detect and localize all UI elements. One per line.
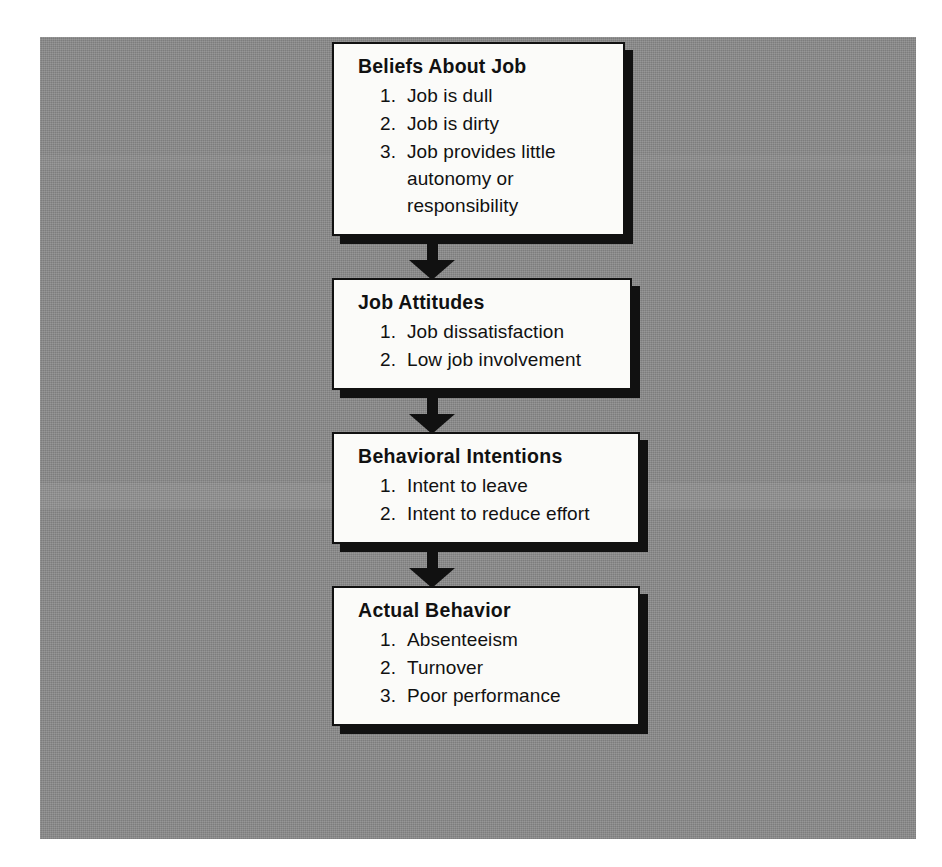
connector-arrow-down-icon xyxy=(290,544,650,586)
list-item-text: Job dissatisfaction xyxy=(407,321,564,342)
list-item-text: Job provides little autonomy or responsi… xyxy=(407,141,556,216)
list-item-text: Absenteeism xyxy=(407,629,518,650)
flow-box-title: Beliefs About Job xyxy=(348,55,609,78)
flow-box-list: 1. Job dissatisfaction 2. Low job involv… xyxy=(348,319,616,374)
list-item-number: 2. xyxy=(380,347,396,374)
list-item-text: Job is dull xyxy=(407,85,493,106)
list-item: 1. Job dissatisfaction xyxy=(380,319,616,346)
flow-box-title: Actual Behavior xyxy=(348,599,624,622)
list-item-number: 2. xyxy=(380,655,396,682)
list-item-text: Intent to leave xyxy=(407,475,528,496)
list-item-text: Intent to reduce effort xyxy=(407,503,590,524)
flow-box-behavioral-intentions: Behavioral Intentions 1. Intent to leave… xyxy=(332,432,640,544)
list-item: 1. Absenteeism xyxy=(380,627,624,654)
list-item: 3. Poor performance xyxy=(380,683,624,710)
flow-box-job-attitudes: Job Attitudes 1. Job dissatisfaction 2. … xyxy=(332,278,632,390)
list-item-number: 2. xyxy=(380,111,396,138)
list-item: 2. Job is dirty xyxy=(380,111,609,138)
list-item-number: 1. xyxy=(380,319,396,346)
flow-box-beliefs-about-job: Beliefs About Job 1. Job is dull 2. Job … xyxy=(332,42,625,236)
flow-box-title: Behavioral Intentions xyxy=(348,445,624,468)
list-item: 1. Intent to leave xyxy=(380,473,624,500)
connector-arrow-down-icon xyxy=(290,236,650,278)
arrow-head xyxy=(409,414,455,434)
arrow-stem xyxy=(427,236,438,262)
flow-box-list: 1. Absenteeism 2. Turnover 3. Poor perfo… xyxy=(348,627,624,710)
list-item-number: 3. xyxy=(380,683,396,710)
diagram-canvas: Beliefs About Job 1. Job is dull 2. Job … xyxy=(0,0,942,867)
list-item-number: 1. xyxy=(380,473,396,500)
flowchart: Beliefs About Job 1. Job is dull 2. Job … xyxy=(290,42,650,726)
list-item: 2. Intent to reduce effort xyxy=(380,501,624,528)
arrow-head xyxy=(409,260,455,280)
arrow-stem xyxy=(427,390,438,416)
list-item-text: Low job involvement xyxy=(407,349,581,370)
list-item-text: Poor performance xyxy=(407,685,561,706)
flow-box-title: Job Attitudes xyxy=(348,291,616,314)
arrow-stem xyxy=(427,544,438,570)
list-item: 2. Turnover xyxy=(380,655,624,682)
connector-arrow-down-icon xyxy=(290,390,650,432)
list-item-number: 3. xyxy=(380,139,396,166)
list-item-text: Job is dirty xyxy=(407,113,499,134)
arrow-head xyxy=(409,568,455,588)
flow-box-list: 1. Intent to leave 2. Intent to reduce e… xyxy=(348,473,624,528)
flow-box-list: 1. Job is dull 2. Job is dirty 3. Job pr… xyxy=(348,83,609,220)
flow-box-actual-behavior: Actual Behavior 1. Absenteeism 2. Turnov… xyxy=(332,586,640,726)
list-item: 2. Low job involvement xyxy=(380,347,616,374)
list-item: 1. Job is dull xyxy=(380,83,609,110)
list-item: 3. Job provides little autonomy or respo… xyxy=(380,139,609,220)
list-item-text: Turnover xyxy=(407,657,483,678)
list-item-number: 1. xyxy=(380,83,396,110)
list-item-number: 1. xyxy=(380,627,396,654)
list-item-number: 2. xyxy=(380,501,396,528)
